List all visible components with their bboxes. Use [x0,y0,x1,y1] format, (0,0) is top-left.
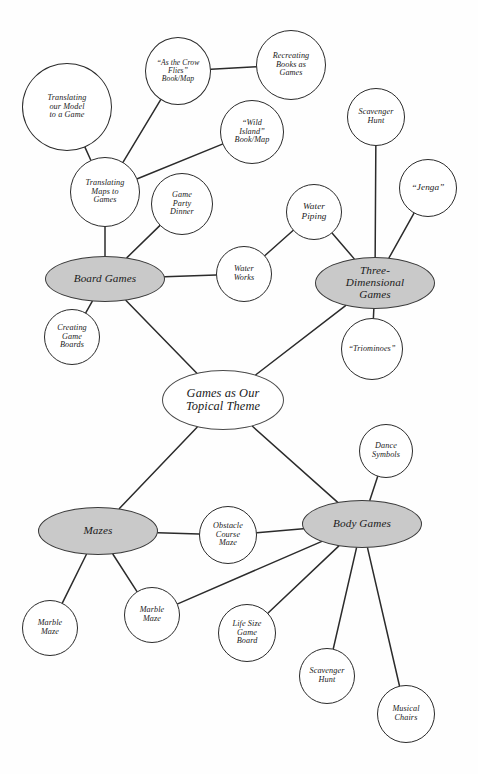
node-label-recreating-books-as-games: Recreating Books as Games [271,52,312,78]
node-label-marble-maze-mid: Marble Maze [138,606,167,623]
node-label-scavenger-hunt-bottom: Scavenger Hunt [308,667,347,684]
node-triominoes[interactable]: “Triominoes” [341,318,403,380]
node-label-creating-game-boards: Creating Game Boards [55,324,89,350]
node-label-as-the-crow-flies: “As the Crow Flies” Book/Map [155,59,202,83]
node-water-works[interactable]: Water Works [216,246,272,302]
node-label-jenga: “Jenga” [410,183,447,193]
node-label-translating-maps-to-games: Translating Maps to Games [84,179,127,205]
node-label-scavenger-hunt-top: Scavenger Hunt [357,108,396,125]
node-scavenger-hunt-top[interactable]: Scavenger Hunt [347,88,405,146]
node-label-games-as-our-topical-theme: Games as Our Topical Theme [184,387,262,413]
node-marble-maze-mid[interactable]: Marble Maze [124,587,180,643]
node-label-water-piping: Water Piping [299,202,328,222]
node-board-games[interactable]: Board Games [45,256,165,302]
node-label-marble-maze-left: Marble Maze [36,619,65,636]
node-label-board-games: Board Games [72,273,139,285]
node-label-translating-our-model: Translating our Model to a Game [46,94,89,120]
node-obstacle-course-maze[interactable]: Obstacle Course Maze [199,506,257,564]
node-label-triominoes: “Triominoes” [346,345,397,354]
node-translating-maps-to-games[interactable]: Translating Maps to Games [70,157,140,227]
node-translating-our-model[interactable]: Translating our Model to a Game [22,63,112,151]
node-as-the-crow-flies[interactable]: “As the Crow Flies” Book/Map [145,37,211,105]
node-marble-maze-left[interactable]: Marble Maze [22,600,78,656]
node-three-dimensional-games[interactable]: Three- Dimensional Games [315,257,435,309]
node-label-water-works: Water Works [232,265,257,282]
node-water-piping[interactable]: Water Piping [286,184,342,240]
node-games-as-our-topical-theme[interactable]: Games as Our Topical Theme [162,370,284,430]
node-label-body-games: Body Games [331,518,393,530]
node-jenga[interactable]: “Jenga” [399,159,457,217]
node-recreating-books-as-games[interactable]: Recreating Books as Games [256,30,326,100]
node-game-party-dinner[interactable]: Game Party Dinner [151,173,213,235]
node-mazes[interactable]: Mazes [38,507,158,555]
node-label-game-party-dinner: Game Party Dinner [168,191,196,217]
node-label-dance-symbols: Dance Symbols [370,442,402,459]
node-label-obstacle-course-maze: Obstacle Course Maze [211,522,245,548]
node-life-size-game-board[interactable]: Life Size Game Board [218,604,276,662]
node-musical-chairs[interactable]: Musical Chairs [377,685,435,743]
node-dance-symbols[interactable]: Dance Symbols [359,424,413,478]
node-wild-island[interactable]: “Wild Island” Book/Map [220,100,284,164]
node-layer: Translating our Model to a Game“As the C… [0,0,478,774]
node-scavenger-hunt-bottom[interactable]: Scavenger Hunt [299,648,355,704]
node-label-life-size-game-board: Life Size Game Board [231,620,264,646]
node-body-games[interactable]: Body Games [302,500,422,548]
concept-map-canvas: Translating our Model to a Game“As the C… [0,0,478,774]
node-creating-game-boards[interactable]: Creating Game Boards [44,309,100,365]
node-label-wild-island: “Wild Island” Book/Map [233,119,272,145]
node-label-musical-chairs: Musical Chairs [390,705,421,722]
node-label-three-dimensional-games: Three- Dimensional Games [344,265,406,301]
node-label-mazes: Mazes [81,525,114,537]
